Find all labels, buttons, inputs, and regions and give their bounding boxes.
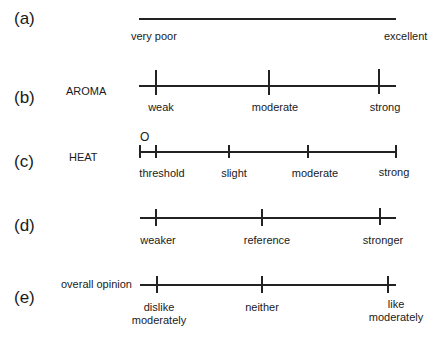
anchor-label-line: moderately xyxy=(369,311,423,323)
tick xyxy=(139,145,141,158)
anchor-label: excellent xyxy=(384,30,427,42)
scale-letter: (a) xyxy=(14,9,35,29)
anchor-label: dislike moderately xyxy=(132,301,186,327)
tick xyxy=(378,69,380,94)
scale-line xyxy=(140,217,396,219)
anchor-label: stronger xyxy=(363,234,403,247)
scale-letter: (d) xyxy=(14,216,35,236)
anchor-label: moderate xyxy=(252,101,298,114)
tick xyxy=(261,276,263,293)
scale-line xyxy=(140,284,396,286)
zero-label: O xyxy=(140,130,149,144)
tick xyxy=(228,145,230,158)
tick xyxy=(379,208,381,225)
scale-name: overall opinion xyxy=(61,278,132,290)
anchor-label: reference xyxy=(244,234,290,247)
anchor-label: neither xyxy=(245,301,279,314)
anchor-label: weaker xyxy=(140,234,175,247)
tick xyxy=(155,145,157,158)
anchor-label-line: like xyxy=(388,298,405,310)
anchor-label: strong xyxy=(370,101,401,114)
tick xyxy=(155,209,157,226)
scale-name: AROMA xyxy=(66,85,106,97)
anchor-label: slight xyxy=(221,167,247,180)
scale-line xyxy=(139,18,396,20)
anchor-label: weak xyxy=(148,101,174,114)
scale-letter: (b) xyxy=(14,88,35,108)
scale-letter: (c) xyxy=(14,152,34,172)
anchor-label-line: dislike xyxy=(144,301,175,313)
tick xyxy=(387,276,389,293)
tick xyxy=(261,209,263,226)
tick xyxy=(155,70,157,95)
scale-name: HEAT xyxy=(69,151,98,163)
tick xyxy=(307,145,309,158)
anchor-label-line: moderately xyxy=(132,314,186,326)
tick xyxy=(395,145,397,158)
anchor-label: like moderately xyxy=(369,298,423,324)
anchor-label: threshold xyxy=(139,167,184,180)
anchor-label: very poor xyxy=(131,30,177,42)
anchor-label: moderate xyxy=(292,167,338,180)
scale-letter: (e) xyxy=(14,288,35,308)
tick xyxy=(156,276,158,293)
anchor-label: strong xyxy=(379,166,410,179)
scale-line xyxy=(140,151,396,153)
tick xyxy=(268,70,270,95)
